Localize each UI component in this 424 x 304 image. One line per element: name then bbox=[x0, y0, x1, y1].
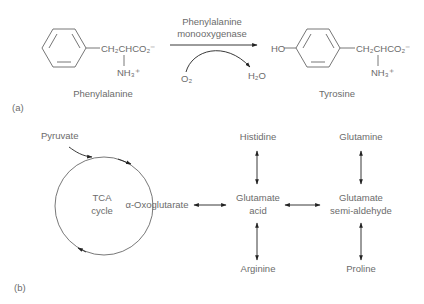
tca-cycle-label-line1: TCA bbox=[93, 192, 113, 203]
pyruvate-label: Pyruvate bbox=[41, 130, 79, 141]
o2-label: O₂ bbox=[181, 73, 192, 84]
tca-cycle-label-line2: cycle bbox=[91, 205, 113, 216]
enzyme-label-line2: monooxygenase bbox=[177, 28, 247, 39]
figure: CH₂CHCO₂⁻ NH₃⁺ Phenylalanine Phenylalani… bbox=[0, 0, 424, 304]
tyrosine-label: Tyrosine bbox=[319, 88, 355, 99]
arginine-label: Arginine bbox=[241, 263, 276, 274]
tca-cycle-direction-arrow-bottom bbox=[78, 248, 86, 252]
phenylalanine-amine: NH₃⁺ bbox=[117, 67, 140, 78]
o2-to-h2o-curved-arrow bbox=[186, 51, 250, 72]
tyrosine-side-chain: CH₂CHCO₂⁻ bbox=[356, 43, 410, 54]
tyrosine-amine: NH₃⁺ bbox=[371, 67, 394, 78]
tca-cycle-direction-arrow-top bbox=[118, 159, 131, 164]
panel-a-label: (a) bbox=[12, 102, 24, 113]
histidine-label: Histidine bbox=[240, 131, 276, 142]
phenylalanine-label: Phenylalanine bbox=[73, 88, 133, 99]
pyruvate-entry-arrow bbox=[69, 147, 92, 157]
proline-label: Proline bbox=[346, 263, 376, 274]
tyrosine-hydroxyl: HO bbox=[271, 43, 285, 54]
glutamate-acid-label-line1: Glutamate bbox=[236, 192, 280, 203]
phenylalanine-side-chain: CH₂CHCO₂⁻ bbox=[101, 43, 155, 54]
glutamate-semialdehyde-label-line1: Glutamate bbox=[339, 192, 383, 203]
panel-a: CH₂CHCO₂⁻ NH₃⁺ Phenylalanine Phenylalani… bbox=[12, 16, 410, 113]
panel-b-label: (b) bbox=[14, 282, 26, 293]
tyrosine-benzene-ring bbox=[284, 29, 355, 67]
alpha-oxoglutarate-label: α-Oxoglutarate bbox=[125, 199, 188, 210]
phenylalanine-benzene-ring bbox=[42, 29, 100, 67]
panel-b: Pyruvate TCA cycle α-Oxoglutarate Glutam… bbox=[14, 130, 392, 293]
glutamate-semialdehyde-label-line2: semi-aldehyde bbox=[330, 205, 392, 216]
h2o-label: H₂O bbox=[248, 70, 266, 81]
glutamate-acid-label-line2: acid bbox=[249, 205, 266, 216]
glutamine-label: Glutamine bbox=[339, 131, 382, 142]
enzyme-label-line1: Phenylalanine bbox=[182, 16, 242, 27]
